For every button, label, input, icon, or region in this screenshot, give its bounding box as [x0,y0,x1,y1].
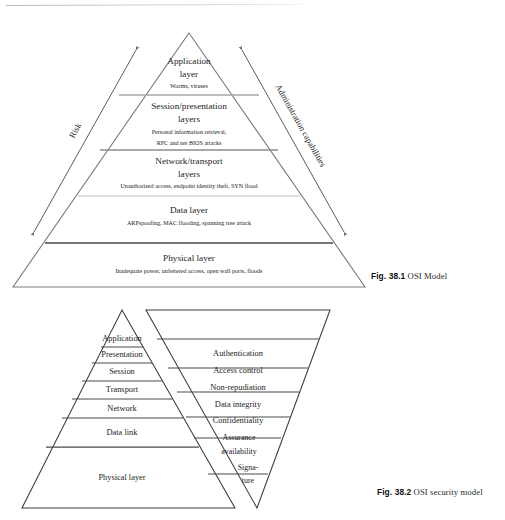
layer-network-threats: Unauthorized access, endpoint identity t… [120,183,257,189]
security-label-signature-line2: ture [242,476,255,485]
security-label-confidentiality: Confidentiality [213,416,265,425]
osi-stack-label-presentation: Presentation [101,350,143,359]
layer-session-threats-line2: RPC and net BIOS attacks [157,140,222,146]
security-label-availability: availability [221,447,257,456]
security-label-data-integrity: Data integrity [215,400,262,409]
security-label-non-repudiation: Non-repudiation [210,383,266,392]
osi-stack-label-network: Network [107,404,137,413]
figure-38-1-caption-number: Fig. 38.1 [371,271,405,281]
security-label-signature-line1: Signa- [238,463,259,472]
layer-session-threats-line1: Personal information retrieval, [152,129,227,135]
osi-stack-label-transport: Transport [106,385,139,394]
figure-38-2-caption-text: OSI security model [414,487,483,497]
security-label-access-control: Access control [213,366,263,375]
layer-application-threats: Worms, viruses [170,83,208,89]
layer-session-title: Session/presentation [151,101,227,111]
figure-38-1-caption-text: OSI Model [408,271,448,281]
layer-physical-title: Physical layer [163,253,215,263]
figure-38-2-caption-number: Fig. 38.2 [377,487,411,497]
layer-network-title-line2: layers [178,169,200,179]
figure-38-2: Application Presentation Session Transpo… [22,310,330,508]
risk-axis-label: Risk [67,121,84,140]
layer-application-title-line2: layer [180,69,198,79]
figures-canvas: Application layer Worms, viruses Session… [0,0,505,520]
layer-network-title: Network/transport [155,156,223,166]
figure-page: Application layer Worms, viruses Session… [0,0,505,520]
figure-38-1: Application layer Worms, viruses Session… [13,33,365,287]
security-label-authentication: Authentication [213,349,264,358]
security-label-assurance: Assurance [223,433,256,442]
figure-38-2-caption: Fig. 38.2 OSI security model [377,487,483,497]
layer-data-threats: ARPspoofing, MAC flooding, spanning tree… [127,220,252,226]
osi-stack-label-physical: Physical layer [98,473,145,482]
layer-physical-threats: Inadequate power, unfettered access, ope… [116,268,264,274]
osi-stack-label-application: Application [102,334,142,343]
osi-stack-label-session: Session [109,367,135,376]
layer-application-title: Application [167,56,211,66]
layer-data-title: Data layer [170,205,208,215]
layer-session-title-line2: layers [178,114,200,124]
figure-38-1-caption: Fig. 38.1 OSI Model [371,271,447,281]
osi-stack-label-data-link: Data link [107,428,139,437]
